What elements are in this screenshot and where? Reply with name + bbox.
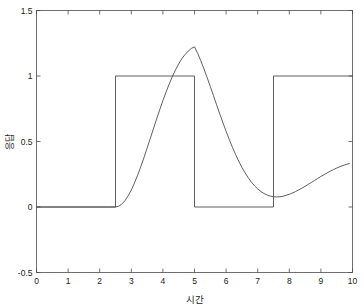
x-tick-label: 0 — [34, 277, 39, 286]
y-tick-label: 1 — [28, 72, 33, 81]
x-tick-label: 6 — [224, 277, 229, 286]
series-line-smooth — [37, 47, 350, 207]
y-tick-label: 0.5 — [21, 137, 33, 146]
x-tick-label: 2 — [97, 277, 102, 286]
y-tick-label: 1.5 — [21, 6, 33, 15]
x-tick-label: 9 — [319, 277, 324, 286]
y-tick-label: -0.5 — [18, 268, 33, 277]
x-tick-label: 7 — [255, 277, 260, 286]
x-axis-label: 시간 — [186, 292, 204, 306]
x-tick-label: 1 — [66, 277, 71, 286]
series-line-step — [37, 76, 353, 207]
figure-canvas: 012345678910-0.500.511.5 시간 응답 — [0, 0, 364, 306]
x-tick-label: 8 — [287, 277, 292, 286]
chart-plot-area — [0, 0, 364, 306]
data-series-group — [37, 47, 353, 207]
y-axis-label: 응답 — [3, 134, 16, 150]
x-tick-label: 3 — [129, 277, 134, 286]
x-tick-label: 5 — [192, 277, 197, 286]
y-tick-label: 0 — [28, 203, 33, 212]
x-tick-label: 4 — [161, 277, 166, 286]
x-tick-label: 10 — [348, 277, 357, 286]
